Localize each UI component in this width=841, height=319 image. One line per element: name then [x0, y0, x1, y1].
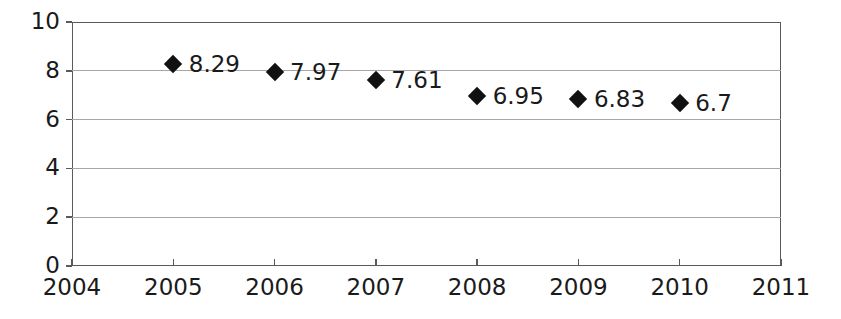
- x-tick-mark-2008: [476, 259, 478, 266]
- y-tick-mark-2: [66, 216, 72, 218]
- y-tick-mark-8: [66, 70, 72, 72]
- y-tick-label-6: 6: [45, 108, 60, 131]
- data-point: 7.97: [268, 60, 341, 83]
- diamond-marker-icon: [569, 90, 587, 108]
- data-point-label: 7.61: [391, 69, 442, 92]
- diamond-marker-icon: [164, 55, 182, 73]
- data-point-label: 8.29: [189, 52, 240, 75]
- data-point: 6.83: [572, 88, 645, 111]
- diamond-marker-icon: [671, 93, 689, 111]
- x-tick-mark-2004: [71, 259, 73, 266]
- x-tick-mark-2010: [679, 259, 681, 266]
- x-tick-mark-2007: [375, 259, 377, 266]
- y-tick-label-10: 10: [31, 10, 60, 33]
- gridline-y-4: [72, 168, 781, 169]
- diamond-marker-icon: [265, 62, 283, 80]
- y-tick-label-2: 2: [45, 205, 60, 228]
- x-tick-label-2011: 2011: [721, 276, 841, 299]
- diamond-marker-icon: [468, 87, 486, 105]
- x-tick-mark-2006: [274, 259, 276, 266]
- x-tick-mark-2011: [780, 259, 782, 266]
- x-tick-mark-2005: [173, 259, 175, 266]
- gridline-y-2: [72, 217, 781, 218]
- data-point: 6.95: [471, 85, 544, 108]
- gridline-y-6: [72, 119, 781, 120]
- data-point: 8.29: [167, 52, 240, 75]
- data-point: 7.61: [369, 69, 442, 92]
- data-point-label: 7.97: [290, 60, 341, 83]
- y-tick-mark-4: [66, 168, 72, 170]
- diamond-marker-icon: [367, 71, 385, 89]
- data-point-label: 6.7: [695, 91, 732, 114]
- data-point-label: 6.83: [594, 88, 645, 111]
- data-point-label: 6.95: [493, 85, 544, 108]
- y-tick-mark-6: [66, 119, 72, 121]
- y-tick-label-4: 4: [45, 156, 60, 179]
- data-point: 6.7: [673, 91, 732, 114]
- chart-page: 0246810 20042005200620072008200920102011…: [0, 0, 841, 319]
- y-tick-label-8: 8: [45, 59, 60, 82]
- x-tick-mark-2009: [578, 259, 580, 266]
- y-tick-mark-10: [66, 21, 72, 23]
